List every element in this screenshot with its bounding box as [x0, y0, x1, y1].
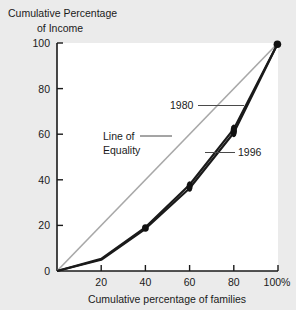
marker-100: [274, 40, 282, 48]
lorenz-curve-figure: Cumulative Percentage of Income 100 80 6…: [0, 0, 296, 310]
x-tick-label-40: 40: [140, 276, 152, 288]
marker-40: [142, 224, 149, 232]
y-axis-title-line2: of Income: [37, 22, 83, 34]
y-tick-label-40: 40: [38, 174, 50, 186]
marker-60: [187, 181, 193, 191]
annotation-equality-label-line1: Line of: [103, 130, 135, 142]
annotation-equality-label-line2: Equality: [103, 144, 141, 156]
y-tick-label-0: 0: [44, 265, 50, 277]
annotation-1980-label: 1980: [170, 99, 194, 111]
x-tick-label-80: 80: [228, 276, 240, 288]
x-axis-title: Cumulative percentage of families: [88, 293, 246, 305]
chart-svg: Cumulative Percentage of Income 100 80 6…: [0, 0, 296, 310]
y-axis-title-line1: Cumulative Percentage: [8, 7, 117, 19]
y-tick-label-80: 80: [38, 83, 50, 95]
y-tick-label-20: 20: [38, 219, 50, 231]
marker-80: [231, 124, 237, 137]
x-tick-label-20: 20: [95, 276, 107, 288]
x-tick-label-60: 60: [184, 276, 196, 288]
y-tick-label-60: 60: [38, 128, 50, 140]
y-tick-label-100: 100: [32, 37, 50, 49]
x-tick-label-100: 100%: [264, 276, 291, 288]
annotation-1996-label: 1996: [238, 146, 262, 158]
